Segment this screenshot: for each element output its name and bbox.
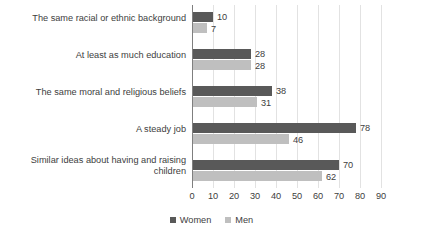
x-tick-label: 40 [271,190,281,202]
bar-value-label: 28 [255,49,265,59]
category-label: A steady job [0,124,186,135]
bar-value-label: 31 [261,98,271,108]
legend-swatch-icon [225,217,231,223]
category-axis-labels: The same racial or ethnic background At … [0,5,190,188]
x-tick-label: 70 [334,190,344,202]
legend-item-women[interactable]: Women [170,215,212,225]
bar-value-label: 10 [217,12,227,22]
bar-women [192,123,356,133]
x-tick-label: 80 [355,190,365,202]
x-tick-label: 50 [292,190,302,202]
bar-women [192,49,251,59]
bar-value-label: 38 [276,86,286,96]
category-label: The same racial or ethnic background [0,13,186,24]
x-tick-label: 10 [208,190,218,202]
bar-value-label: 7 [211,24,216,34]
x-tick-label: 90 [376,190,386,202]
bar-men [192,60,251,70]
category-label: The same moral and religious beliefs [0,87,186,98]
category-label: Similar ideas about having and raising c… [0,155,186,178]
legend-label: Men [235,215,253,225]
bar-men [192,134,289,144]
bar-value-label: 78 [360,123,370,133]
bar-value-label: 70 [343,160,353,170]
bar-value-label: 28 [255,61,265,71]
bar-women [192,12,213,22]
x-tick-label: 60 [313,190,323,202]
x-tick-label: 20 [229,190,239,202]
chart-legend: Women Men [0,212,423,228]
legend-swatch-icon [170,217,176,223]
legend-label: Women [180,215,212,225]
x-tick-label: 0 [189,190,194,202]
gridline [339,5,340,188]
bar-men [192,97,257,107]
x-tick-label: 30 [250,190,260,202]
bar-men [192,23,207,33]
gridline [360,5,361,188]
legend-item-men[interactable]: Men [225,215,253,225]
bar-men [192,171,322,181]
gridline [381,5,382,188]
category-label: At least as much education [0,50,186,61]
x-axis-tick-labels: 0 10 20 30 40 50 60 70 80 90 [192,190,382,204]
bar-value-label: 62 [326,172,336,182]
plot-area: 10 7 28 28 38 31 78 46 70 62 [192,5,382,188]
bar-chart: The same racial or ethnic background At … [0,0,423,233]
y-axis-line [192,5,193,188]
bar-value-label: 46 [293,135,303,145]
bar-women [192,160,339,170]
bar-women [192,86,272,96]
